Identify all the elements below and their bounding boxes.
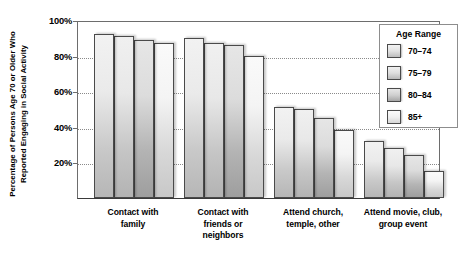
- bar: [184, 38, 204, 198]
- bar: [224, 45, 244, 198]
- bar: [154, 43, 174, 198]
- legend-item: 85+: [387, 109, 422, 125]
- legend-item: 75–79: [387, 65, 431, 81]
- bar: [204, 43, 224, 198]
- y-tick-label: 60%: [0, 87, 72, 97]
- legend-swatch: [387, 110, 401, 124]
- category-label: Attend movie, club,group event: [341, 207, 458, 230]
- legend-label: 75–79: [408, 68, 431, 78]
- legend-title: Age Range: [380, 29, 457, 39]
- category-label-line: neighbors: [169, 230, 277, 242]
- bar: [424, 171, 444, 198]
- legend-swatch: [387, 66, 401, 80]
- bar: [384, 148, 404, 198]
- bar: [134, 40, 154, 198]
- y-tick-label: 80%: [0, 52, 72, 62]
- legend-item: 80–84: [387, 87, 431, 103]
- category-label-line: Attend movie, club,: [341, 207, 458, 219]
- legend: Age Range 70–7475–7980–8485+: [379, 24, 458, 128]
- bar: [94, 34, 114, 198]
- legend-item: 70–74: [387, 43, 431, 59]
- bar-group: [274, 22, 354, 198]
- legend-label: 80–84: [408, 90, 431, 100]
- y-tick-label: 20%: [0, 158, 72, 168]
- bar: [274, 107, 294, 198]
- bar: [294, 109, 314, 198]
- y-tick-label: 100%: [0, 16, 72, 26]
- bar: [314, 118, 334, 198]
- chart-figure: Percentage of Persons Age 70 or Older Wh…: [0, 0, 458, 260]
- bar: [364, 141, 384, 198]
- y-axis-title: Percentage of Persons Age 70 or Older Wh…: [7, 14, 29, 214]
- bar: [334, 130, 354, 198]
- category-label-line: group event: [341, 219, 458, 231]
- bar-group: [94, 22, 174, 198]
- bar: [404, 155, 424, 198]
- bar: [114, 36, 134, 198]
- y-tick-label: 40%: [0, 123, 72, 133]
- legend-label: 70–74: [408, 46, 431, 56]
- bar-group: [184, 22, 264, 198]
- legend-label: 85+: [408, 112, 422, 122]
- legend-swatch: [387, 44, 401, 58]
- bar: [244, 56, 264, 198]
- legend-swatch: [387, 88, 401, 102]
